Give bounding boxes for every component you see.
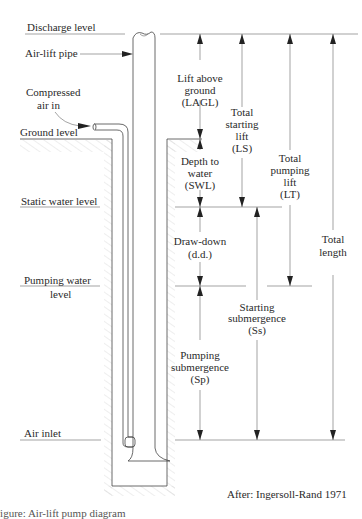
svg-text:Lift above: Lift above [177,72,223,84]
air-lift-pipe-label: Air-lift pipe [25,47,78,59]
ground-level-label: Ground level [20,126,78,138]
svg-text:(d.d.): (d.d.) [188,248,212,261]
static-water-level-label: Static water level [21,195,97,207]
svg-text:submergence: submergence [171,361,229,373]
compressed-air-line [93,124,135,447]
svg-text:Pumping: Pumping [180,349,220,361]
svg-text:Total: Total [279,152,301,164]
svg-text:pumping: pumping [270,164,310,176]
dimension-label-sp: Pumping submergence (Sp) [171,349,229,386]
pumping-water-level-label-2: level [50,288,71,300]
svg-text:length: length [319,246,347,258]
svg-text:water: water [188,167,213,179]
air-lift-pipe-arrow [122,51,133,57]
ground-hatching [20,140,202,496]
compressed-air-label-1: Compressed [26,86,81,98]
svg-text:Total: Total [231,106,253,118]
svg-text:Total: Total [322,233,344,245]
pumping-water-level-label-1: Pumping water [24,274,91,286]
svg-text:(LS): (LS) [232,142,253,155]
dimension-label-ss: Starting submergence (Ss) [228,301,286,337]
dimension-label-lt: Total pumping lift (LT) [270,152,310,201]
svg-text:(Ss): (Ss) [248,324,266,337]
svg-text:lift: lift [284,176,297,188]
dimension-label-ls: Total starting lift (LS) [226,106,259,155]
compressed-air-arrow [78,123,91,129]
dimension-label-dd: Draw-down (d.d.) [174,235,227,261]
dimension-label-total-length: Total length [319,233,347,258]
figure-caption-partial: Figure: Air-lift pump diagram [0,507,125,519]
air-lift-pipe [128,32,170,461]
source-credit: After: Ingersoll-Rand 1971 [227,488,347,500]
svg-text:(Sp): (Sp) [191,373,210,386]
svg-text:lift: lift [236,130,249,142]
svg-text:(LAGL): (LAGL) [182,96,219,109]
svg-text:starting: starting [226,118,259,130]
discharge-level-label: Discharge level [27,21,96,33]
svg-text:(LT): (LT) [280,188,300,201]
svg-text:ground: ground [184,84,216,96]
svg-text:(SWL): (SWL) [185,179,216,192]
dimension-label-lagl: Lift above ground (LAGL) [177,72,223,109]
svg-text:Depth to: Depth to [181,155,220,167]
well-casing [112,139,167,486]
svg-text:submergence: submergence [228,312,286,324]
compressed-air-label-2: air in [37,99,60,111]
dimension-label-swl: Depth to water (SWL) [181,155,220,192]
svg-text:Draw-down: Draw-down [174,235,227,247]
air-inlet-label: Air inlet [24,427,61,439]
